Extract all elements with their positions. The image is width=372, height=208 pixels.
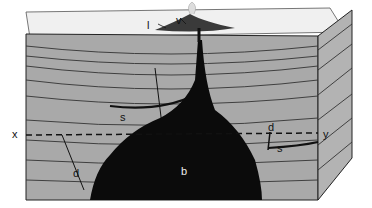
label-batholith: b xyxy=(181,166,187,177)
side-face xyxy=(318,10,352,200)
label-dike-right: d xyxy=(268,122,274,133)
label-sill-upper: s xyxy=(120,112,126,123)
label-y: y xyxy=(323,129,329,140)
label-sill-right: s xyxy=(277,143,283,154)
label-volcano: v xyxy=(176,15,182,26)
label-lava-flow: l xyxy=(147,20,149,31)
eruption-plume xyxy=(188,2,195,14)
label-dike-left: d xyxy=(73,168,79,179)
label-x: x xyxy=(12,129,18,140)
